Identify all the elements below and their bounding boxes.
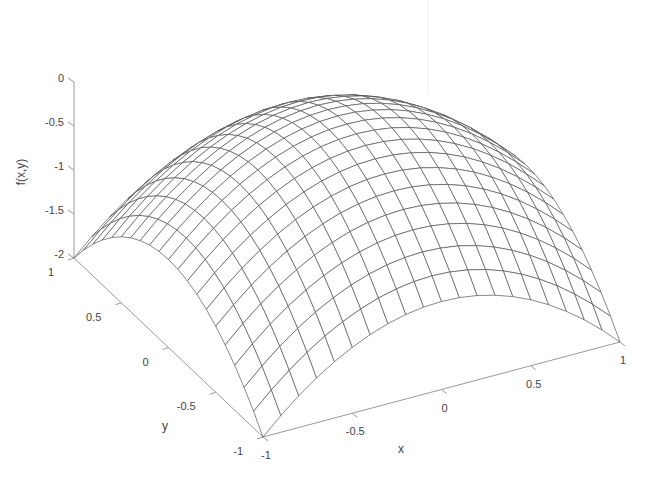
surface-plot: -1-0.500.51-1-0.500.51-2-1.5-1-0.50 x y … [0, 0, 647, 479]
z-axis-label: f(x,y) [14, 159, 28, 186]
y-axis-label: y [162, 419, 168, 433]
x-tick-label: 0 [441, 402, 447, 414]
z-tick-label: -2 [54, 248, 64, 260]
y-tick-label: -0.5 [177, 400, 196, 412]
x-tick-label: -0.5 [346, 425, 365, 437]
y-tick-label: 0 [142, 356, 148, 368]
x-tick-label: 1 [620, 354, 626, 366]
x-axis-label: x [398, 442, 404, 456]
x-tick-label: -1 [261, 449, 271, 461]
z-tick-label: -0.5 [45, 116, 64, 128]
x-tick-label: 0.5 [526, 378, 541, 390]
z-tick-label: 0 [58, 72, 64, 84]
y-tick-label: 1 [48, 266, 54, 278]
z-tick-label: -1 [54, 160, 64, 172]
z-tick-label: -1.5 [45, 204, 64, 216]
y-tick-label: 0.5 [86, 311, 101, 323]
y-tick-label: -1 [233, 445, 243, 457]
